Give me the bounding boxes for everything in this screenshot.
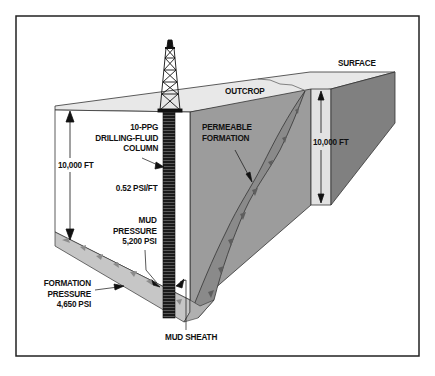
drilling-fluid-column xyxy=(163,112,175,318)
label-mud-sheath: MUD SHEATH xyxy=(165,332,217,343)
diagram-canvas: SURFACE OUTCROP PERMEABLE FORMATION 10-P… xyxy=(0,0,435,376)
label-formation-pressure: FORMATION PRESSURE 4,650 PSI xyxy=(44,278,91,310)
label-gradient: 0.52 PSI/FT xyxy=(115,183,157,194)
label-surface: SURFACE xyxy=(338,58,376,69)
label-depth-right: 10,000 FT xyxy=(313,137,349,148)
label-mud-pressure: MUD PRESSURE 5,200 PSI xyxy=(113,215,157,247)
label-depth-left: 10,000 FT xyxy=(58,160,94,171)
label-permeable-formation: PERMEABLE FORMATION xyxy=(202,122,252,143)
label-drilling-fluid-column: 10-PPG DRILLING-FLUID COLUMN xyxy=(95,122,158,154)
label-outcrop: OUTCROP xyxy=(225,86,265,97)
